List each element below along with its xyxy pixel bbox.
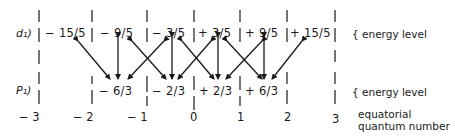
quantum-number: 0 bbox=[190, 110, 197, 124]
lower-value: − 2/3 bbox=[152, 84, 185, 98]
upper-value: − 3/5 bbox=[152, 26, 185, 40]
arrow bbox=[132, 41, 166, 79]
upper-value: + 15/5 bbox=[290, 26, 331, 40]
quantum-number: − 1 bbox=[127, 110, 148, 124]
transition-arrows bbox=[78, 37, 302, 79]
upper-value: + 3/5 bbox=[198, 26, 231, 40]
axis-caption-line1: equatorial bbox=[358, 108, 411, 120]
arrow bbox=[128, 41, 164, 79]
quantum-number: 1 bbox=[237, 110, 244, 124]
quantum-number: 3 bbox=[332, 112, 339, 126]
energy-level-note-upper: { energy level bbox=[352, 28, 427, 40]
lower-value: + 6/3 bbox=[245, 84, 278, 98]
upper-value: − 9/5 bbox=[100, 26, 133, 40]
upper-value: + 9/5 bbox=[245, 26, 278, 40]
quantum-number: 2 bbox=[284, 110, 291, 124]
arrow bbox=[178, 41, 211, 79]
quantum-number: − 2 bbox=[73, 110, 94, 124]
divider-lines bbox=[39, 10, 335, 110]
quantum-number: − 3 bbox=[19, 110, 40, 124]
lower-level-label: P₁) bbox=[16, 84, 31, 97]
lower-value: − 6/3 bbox=[99, 84, 132, 98]
energy-level-note-lower: { energy level bbox=[352, 86, 427, 98]
upper-level-label: d₁) bbox=[16, 27, 32, 40]
upper-value: − 15/5 bbox=[45, 26, 86, 40]
arrow bbox=[78, 41, 110, 79]
axis-caption-line2: quantum number bbox=[358, 120, 450, 132]
lower-value: + 2/3 bbox=[199, 84, 232, 98]
arrow bbox=[182, 41, 214, 79]
